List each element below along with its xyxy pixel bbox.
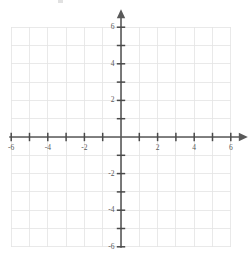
x-tick-label: 4	[192, 144, 196, 152]
axis-lines	[9, 13, 245, 248]
y-tick-label: 2	[111, 97, 115, 105]
grid-and-axes	[0, 0, 252, 264]
x-tick-label: 6	[229, 144, 233, 152]
y-tick-label: 6	[111, 23, 115, 31]
y-tick-label: -4	[108, 206, 114, 214]
x-tick-label: -4	[45, 144, 51, 152]
y-tick-label: -2	[108, 170, 114, 178]
x-tick-label: -2	[81, 144, 87, 152]
y-tick-label: 4	[111, 60, 115, 68]
y-tick-label: -6	[108, 243, 114, 251]
x-tick-label: -6	[8, 144, 14, 152]
coordinate-plane: -6-4-2246642-2-4-6	[0, 0, 252, 264]
x-tick-label: 2	[156, 144, 160, 152]
axis-arrowheads	[117, 9, 248, 141]
